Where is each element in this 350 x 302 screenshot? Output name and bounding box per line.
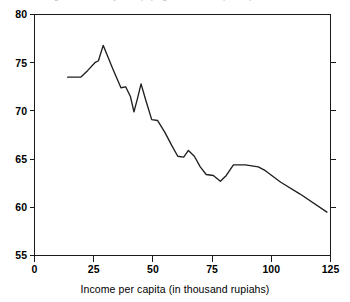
y-tick-label: 65 xyxy=(15,153,27,165)
x-axis-title: Income per capita (in thousand rupiahs) xyxy=(0,283,350,295)
figure-container: Figure 2. Poverty rate (%) against incom… xyxy=(0,0,350,302)
x-tick-label: 25 xyxy=(88,263,100,275)
y-tick-marks xyxy=(30,15,336,256)
x-tick-label: 0 xyxy=(32,263,38,275)
x-tick-label: 50 xyxy=(147,263,159,275)
y-tick-label: 80 xyxy=(15,8,27,20)
y-tick-label: 60 xyxy=(15,201,27,213)
y-tick-labels: 55 60 65 70 75 80 xyxy=(15,8,27,261)
x-tick-marks xyxy=(35,256,331,262)
y-tick-label: 70 xyxy=(15,105,27,117)
axes-frame xyxy=(35,15,331,256)
data-series-line xyxy=(68,45,327,212)
x-tick-label: 100 xyxy=(263,263,281,275)
x-tick-labels: 0 25 50 75 100 125 xyxy=(32,263,340,275)
y-tick-label: 55 xyxy=(15,249,27,261)
y-tick-label: 75 xyxy=(15,57,27,69)
x-tick-label: 125 xyxy=(322,263,340,275)
x-tick-label: 75 xyxy=(206,263,218,275)
line-chart: 55 60 65 70 75 80 0 25 50 75 100 125 xyxy=(0,0,350,302)
